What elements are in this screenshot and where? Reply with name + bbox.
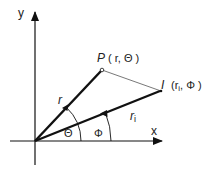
point-i-coords: (ri, Φ ) <box>171 79 202 93</box>
y-axis-label: y <box>18 6 24 20</box>
phi-label: Φ <box>94 127 103 139</box>
phi-arc <box>106 113 112 141</box>
segment-r-label: r <box>58 93 63 107</box>
x-axis-label: x <box>151 124 157 138</box>
point-i-coords-tail: , Φ ) <box>180 79 202 91</box>
point-p-marker <box>100 68 104 72</box>
segment-ri-sub: i <box>134 114 136 124</box>
point-p-name: P <box>97 51 105 65</box>
p-to-i-line <box>102 70 161 91</box>
point-i-name: I <box>161 78 165 92</box>
point-p-coords: ( r, Θ ) <box>108 52 139 64</box>
segment-ri-label: ri <box>130 109 136 124</box>
theta-label: Θ <box>64 127 73 139</box>
polar-coordinates-diagram: y x P ( r, Θ ) I (ri, Φ ) r ri Θ Φ <box>0 0 213 171</box>
phi-arc-arrowhead <box>100 110 108 117</box>
